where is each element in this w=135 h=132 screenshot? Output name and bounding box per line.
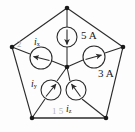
spoke-right-inner bbox=[67, 60, 83, 67]
figure-container: 5 A 3 A ix iy iz 2 1 5 bbox=[0, 0, 135, 132]
circuit-diagram-svg bbox=[0, 0, 135, 132]
spoke-right-outer bbox=[105, 47, 123, 53]
node-vertex-top bbox=[65, 6, 70, 11]
spokes bbox=[12, 8, 123, 118]
spoke-left-outer bbox=[12, 47, 30, 54]
node-vertex-right bbox=[121, 45, 126, 50]
pentagon-edge-right bbox=[106, 47, 123, 118]
spoke-bottom-left-outer bbox=[32, 99, 45, 118]
spoke-left-inner bbox=[52, 61, 67, 67]
pentagon-edge-left bbox=[12, 47, 32, 118]
node-vertex-left bbox=[10, 45, 15, 50]
spoke-bottom-right-outer bbox=[82, 99, 106, 118]
spoke-bottom-left-inner bbox=[57, 67, 67, 81]
node-vertex-bot-left bbox=[30, 116, 35, 121]
node-center bbox=[65, 65, 70, 70]
node-vertex-bot-right bbox=[104, 116, 109, 121]
